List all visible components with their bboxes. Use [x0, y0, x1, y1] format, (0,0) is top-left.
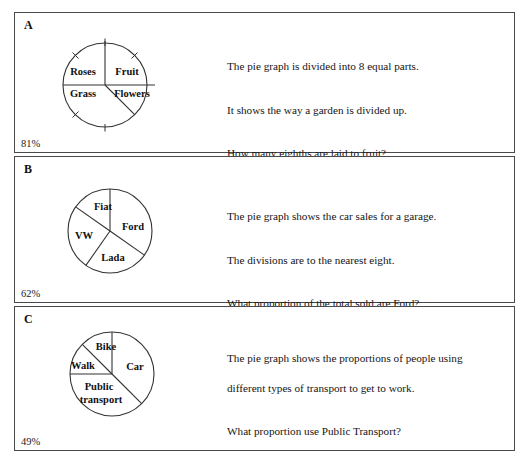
section-letter-b: B: [24, 162, 32, 177]
question-c-line-3: What proportion use Public Transport?: [227, 424, 463, 439]
pie-chart-c: Bike Walk Car Public transport: [39, 307, 229, 456]
pie-chart-a: Roses Fruit Grass Flowers: [39, 13, 229, 158]
pie-c-label-walk: Walk: [71, 360, 95, 371]
pie-c-svg: Bike Walk Car Public transport: [39, 307, 229, 452]
pie-a-label-roses: Roses: [70, 66, 96, 77]
pie-a-tick-northwest: [73, 53, 79, 59]
section-percent-a: 81%: [21, 138, 40, 149]
pie-a-label-grass: Grass: [70, 88, 96, 99]
section-letter-c: C: [24, 312, 33, 327]
section-percent-b: 62%: [21, 288, 40, 299]
pie-b-label-ford: Ford: [122, 221, 144, 232]
section-percent-c: 49%: [21, 436, 40, 447]
question-b-line-2: The divisions are to the nearest eight.: [227, 253, 436, 268]
pie-a-tick-northeast: [132, 53, 138, 59]
worksheet-page: A 81%: [0, 0, 531, 458]
pie-c-label-public-line2: transport: [80, 394, 123, 405]
question-text-c: The pie graph shows the proportions of p…: [227, 336, 463, 458]
question-b-line-1: The pie graph shows the car sales for a …: [227, 209, 436, 224]
question-c-line-2: different types of transport to get to w…: [227, 381, 463, 396]
pie-b-label-lada: Lada: [101, 252, 125, 263]
pie-a-label-flowers: Flowers: [114, 88, 150, 99]
pie-c-label-car: Car: [126, 361, 144, 372]
question-a-line-2: It shows the way a garden is divided up.: [227, 103, 419, 118]
pie-chart-b: Fiat Ford VW Lada: [39, 157, 229, 308]
question-a-line-1: The pie graph is divided into 8 equal pa…: [227, 59, 419, 74]
pie-c-label-public-line1: Public: [85, 381, 114, 392]
section-letter-a: A: [24, 18, 33, 33]
pie-b-svg: Fiat Ford VW Lada: [39, 157, 229, 304]
pie-a-label-fruit: Fruit: [115, 66, 139, 77]
question-c-line-1: The pie graph shows the proportions of p…: [227, 351, 463, 366]
pie-c-label-bike: Bike: [96, 341, 117, 352]
pie-a-svg: Roses Fruit Grass Flowers: [39, 13, 229, 154]
pie-a-tick-southwest: [73, 112, 79, 118]
pie-b-label-vw: VW: [75, 230, 94, 241]
pie-b-label-fiat: Fiat: [94, 201, 113, 212]
